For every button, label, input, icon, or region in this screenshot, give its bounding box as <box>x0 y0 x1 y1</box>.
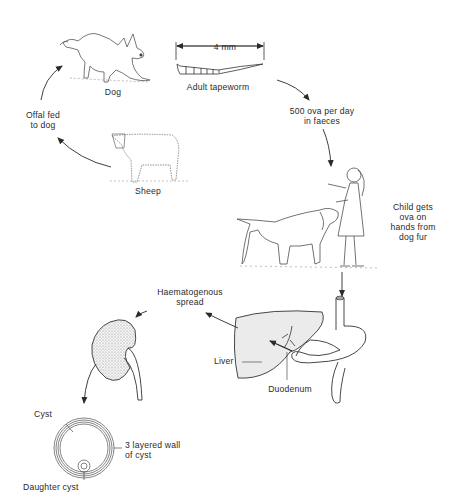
daughter-cyst-label: Daughter cyst <box>23 482 79 492</box>
ova-label-line1: 500 ova per day <box>277 106 367 116</box>
tapeworm-scale-label: 4 mm <box>205 42 245 52</box>
child-label-line3: hands from <box>383 222 443 232</box>
cyst-wall-label-line1: 3 layered wall <box>125 440 180 450</box>
child-label-line2: ova on <box>383 212 443 222</box>
child-label-line1: Child gets <box>383 202 443 212</box>
cyst-label: Cyst <box>34 409 52 419</box>
dog-label: Dog <box>98 87 128 97</box>
liver-label: Liver <box>214 356 234 366</box>
spread-label-line1: Haematogenous <box>150 287 230 297</box>
arrow-liver-to-kidney-haematogenous <box>206 313 238 328</box>
cyst-cross-section-icon <box>54 418 122 480</box>
life-cycle-diagram <box>0 0 453 504</box>
offal-label-line1: Offal fed <box>18 110 68 120</box>
dog-illustration-icon <box>60 33 150 82</box>
arrow-tapeworm-to-ova <box>277 80 309 100</box>
sheep-illustration-icon <box>110 134 190 182</box>
spread-label-line2: spread <box>150 297 230 307</box>
child-label-line4: dog fur <box>383 232 443 242</box>
arrow-spread-to-kidney <box>136 311 147 317</box>
arrow-offal-to-dog <box>41 66 62 100</box>
cyst-wall-label-line2: of cyst <box>125 450 151 460</box>
kidney-illustration-icon <box>92 320 142 400</box>
arrow-sheep-to-offal <box>58 138 111 167</box>
arrow-ova-to-child <box>323 129 331 166</box>
duodenum-label: Duodenum <box>255 384 325 394</box>
sheep-label: Sheep <box>128 186 168 196</box>
arrow-kidney-to-cyst <box>84 364 96 403</box>
tapeworm-label: Adult tapeworm <box>178 82 258 92</box>
ova-label-line2: in faeces <box>277 116 367 126</box>
offal-label-line2: to dog <box>18 120 68 130</box>
child-with-dog-illustration-icon <box>237 168 380 268</box>
